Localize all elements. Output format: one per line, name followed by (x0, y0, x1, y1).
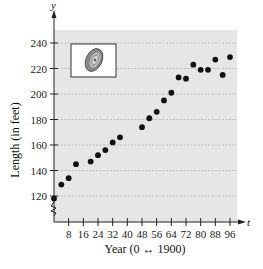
y-tick-label: 200 (31, 88, 48, 100)
x-tick-label: 48 (137, 228, 149, 240)
y-tick-label: 240 (31, 37, 48, 49)
scatter-chart: 120140160180200220240 816243240485664728… (0, 0, 263, 269)
x-axis-title: Year (0 ↔ 1900) (104, 242, 185, 256)
x-tick-label: 8 (66, 228, 72, 240)
x-tick-label: 72 (181, 228, 192, 240)
x-tick-label: 16 (78, 228, 90, 240)
data-point (212, 57, 218, 63)
data-point (190, 62, 196, 68)
x-tick-label: 56 (151, 228, 163, 240)
data-point (168, 90, 174, 96)
data-point (110, 140, 116, 146)
data-point (51, 196, 57, 202)
data-point (117, 134, 123, 140)
data-point (58, 182, 64, 188)
x-axis-arrow-icon (238, 220, 246, 225)
data-point (154, 109, 160, 115)
data-point (220, 72, 226, 78)
x-tick-label: 96 (225, 228, 237, 240)
x-tick-label: 32 (107, 228, 118, 240)
data-point (95, 152, 101, 158)
y-axis-arrow-icon (52, 10, 57, 18)
x-tick-label: 80 (195, 228, 207, 240)
discus-inset-image (71, 44, 116, 77)
y-tick-label: 180 (31, 114, 48, 126)
data-point (161, 97, 167, 103)
y-axis-title: Length (in feet) (8, 102, 22, 177)
data-point (205, 67, 211, 73)
data-point (66, 175, 72, 181)
x-tick-label: 88 (210, 228, 222, 240)
data-point (88, 159, 94, 165)
data-point (102, 147, 108, 153)
y-tick-label: 220 (31, 63, 48, 75)
data-point (146, 115, 152, 121)
data-point (227, 54, 233, 60)
data-point (198, 67, 204, 73)
data-point (73, 161, 79, 167)
y-axis-variable: y (50, 0, 56, 11)
data-point (183, 76, 189, 82)
x-tick-label: 24 (93, 228, 105, 240)
x-axis-variable: t (247, 216, 251, 228)
data-point (176, 75, 182, 81)
y-tick-label: 160 (31, 139, 48, 151)
y-tick-label: 120 (31, 190, 48, 202)
x-tick-label: 40 (122, 228, 134, 240)
data-point (139, 124, 145, 130)
x-tick-label: 64 (166, 228, 178, 240)
y-tick-label: 140 (31, 165, 48, 177)
